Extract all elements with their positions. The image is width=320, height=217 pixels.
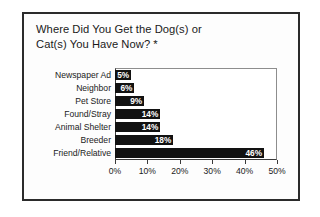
bar: 14% xyxy=(115,109,160,119)
category-label: Animal Shelter xyxy=(55,122,111,132)
chart-title-line-2: Cat(s) You Have Now? * xyxy=(36,37,286,52)
bar-value-label: 46% xyxy=(245,149,262,158)
category-label: Found/Stray xyxy=(64,109,111,119)
x-tick-mark xyxy=(245,160,246,164)
category-label: Neighbor xyxy=(76,83,111,93)
x-tick-mark xyxy=(115,160,116,164)
bar-value-label: 5% xyxy=(117,70,129,79)
x-tick-label: 10% xyxy=(139,166,156,176)
x-tick-label: 40% xyxy=(236,166,253,176)
bar-value-label: 14% xyxy=(142,110,159,119)
chart-figure: Where Did You Get the Dog(s) orCat(s) Yo… xyxy=(22,12,300,201)
bar-value-label: 14% xyxy=(142,123,159,132)
x-tick-mark xyxy=(277,160,278,164)
chart-title: Where Did You Get the Dog(s) orCat(s) Yo… xyxy=(36,22,286,51)
category-label: Breeder xyxy=(80,135,111,145)
x-tick-mark xyxy=(147,160,148,164)
bar: 9% xyxy=(115,96,144,106)
x-tick-label: 50% xyxy=(268,166,285,176)
bar: 14% xyxy=(115,122,160,132)
bar: 46% xyxy=(115,148,264,158)
bar-value-label: 9% xyxy=(130,96,142,105)
bar-value-label: 18% xyxy=(155,136,172,145)
chart-title-line-1: Where Did You Get the Dog(s) or xyxy=(36,22,286,37)
x-tick-mark xyxy=(180,160,181,164)
bar: 5% xyxy=(115,70,131,80)
x-tick-label: 0% xyxy=(109,166,121,176)
bar: 6% xyxy=(115,83,134,93)
x-tick-label: 20% xyxy=(171,166,188,176)
plot-area: 5%Newspaper Ad6%Neighbor9%Pet Store14%Fo… xyxy=(115,68,277,160)
category-label: Pet Store xyxy=(75,96,111,106)
bar-value-label: 6% xyxy=(120,83,132,92)
x-tick-label: 30% xyxy=(204,166,221,176)
x-tick-mark xyxy=(212,160,213,164)
category-label: Friend/Relative xyxy=(53,148,111,158)
category-label: Newspaper Ad xyxy=(55,70,111,80)
bar: 18% xyxy=(115,135,173,145)
